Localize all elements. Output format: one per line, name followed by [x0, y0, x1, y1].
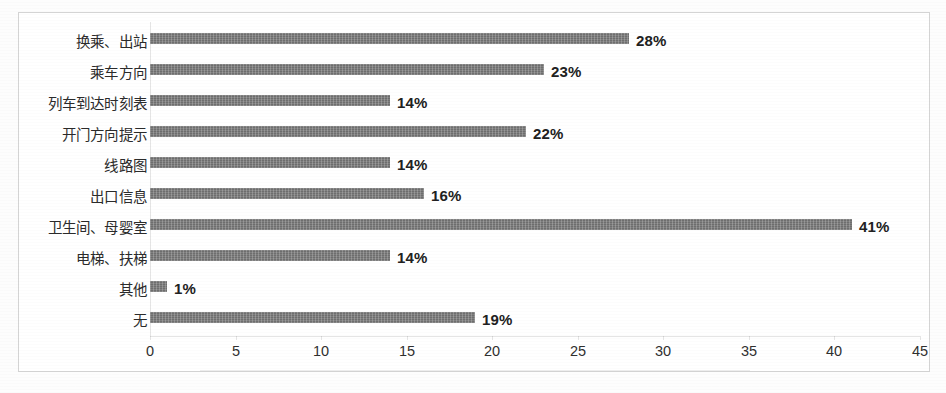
bar-1	[150, 64, 544, 75]
bar-value-7: 14%	[397, 250, 428, 265]
bar-3	[150, 126, 526, 137]
bar-value-1: 23%	[551, 64, 582, 79]
category-label-3: 开门方向提示	[0, 128, 147, 143]
x-tick-label-7: 35	[729, 344, 769, 359]
x-tick-mark-9	[920, 336, 921, 340]
x-tick-mark-2	[321, 336, 322, 340]
category-label-5: 出口信息	[0, 190, 147, 205]
x-tick-mark-7	[749, 336, 750, 340]
x-tick-mark-3	[407, 336, 408, 340]
x-tick-mark-8	[834, 336, 835, 340]
category-label-4: 线路图	[0, 159, 147, 174]
x-tick-mark-5	[578, 336, 579, 340]
x-tick-label-0: 0	[130, 344, 170, 359]
bar-value-6: 41%	[859, 219, 890, 234]
category-label-6: 卫生间、母婴室	[0, 221, 147, 236]
bar-8	[150, 281, 167, 292]
bar-value-8: 1%	[174, 281, 196, 296]
bar-value-5: 16%	[431, 188, 462, 203]
x-tick-mark-4	[492, 336, 493, 340]
bar-chart-plot-area: 换乘、出站 乘车方向 列车到达时刻表 开门方向提示 线路图 出口信息 卫生间、母…	[0, 0, 946, 393]
x-tick-label-5: 25	[558, 344, 598, 359]
bar-4	[150, 157, 390, 168]
bar-6	[150, 219, 852, 230]
x-tick-label-3: 15	[387, 344, 427, 359]
bar-0	[150, 33, 629, 44]
category-label-0: 换乘、出站	[0, 35, 147, 50]
x-tick-mark-0	[150, 336, 151, 340]
x-tick-mark-6	[663, 336, 664, 340]
x-tick-label-1: 5	[216, 344, 256, 359]
scan-edge-line	[200, 370, 750, 371]
x-tick-mark-1	[236, 336, 237, 340]
bar-9	[150, 312, 475, 323]
category-label-1: 乘车方向	[0, 66, 147, 81]
x-tick-label-4: 20	[472, 344, 512, 359]
category-label-8: 其他	[0, 283, 147, 298]
x-tick-label-6: 30	[643, 344, 683, 359]
bar-value-3: 22%	[533, 126, 564, 141]
scanned-page: 换乘、出站 乘车方向 列车到达时刻表 开门方向提示 线路图 出口信息 卫生间、母…	[0, 0, 946, 393]
category-label-7: 电梯、扶梯	[0, 252, 147, 267]
category-label-9: 无	[0, 314, 147, 329]
bar-7	[150, 250, 390, 261]
bar-value-2: 14%	[397, 95, 428, 110]
bar-value-9: 19%	[482, 312, 513, 327]
x-tick-label-2: 10	[301, 344, 341, 359]
bar-2	[150, 95, 390, 106]
bar-5	[150, 188, 424, 199]
x-axis-line	[150, 336, 920, 337]
x-tick-label-8: 40	[814, 344, 854, 359]
bar-value-0: 28%	[636, 33, 667, 48]
x-tick-label-9: 45	[900, 344, 940, 359]
bar-value-4: 14%	[397, 157, 428, 172]
category-label-2: 列车到达时刻表	[0, 97, 147, 112]
